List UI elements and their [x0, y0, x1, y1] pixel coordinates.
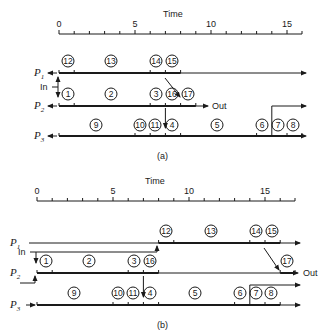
tick-label-5: 5	[110, 186, 115, 196]
task-8: 8	[291, 120, 296, 130]
task-4: 4	[148, 288, 153, 298]
tick-label-0: 0	[34, 186, 39, 196]
processor-label: P3	[9, 298, 21, 313]
task-15: 15	[167, 56, 177, 66]
tick-label-15: 15	[260, 186, 270, 196]
task-13: 13	[106, 56, 116, 66]
processor-p2-b: P2 Out 1 2 3 16 17	[9, 248, 318, 283]
axis-title-b: Time	[145, 176, 165, 186]
schedule-diagrams: Time 0 5 10 15 P1 12 13 14 15 In	[0, 0, 329, 336]
task-15: 15	[267, 226, 277, 236]
task-14: 14	[151, 56, 161, 66]
task-5: 5	[193, 288, 198, 298]
task-7: 7	[254, 288, 259, 298]
axis-title-a: Time	[163, 9, 183, 19]
time-axis-a	[59, 30, 302, 34]
in-label: In	[40, 82, 48, 92]
task-3: 3	[154, 89, 159, 99]
tick-label-0: 0	[56, 19, 61, 29]
task-10: 10	[113, 288, 123, 298]
task-17: 17	[282, 256, 292, 266]
in-label: In	[18, 247, 26, 257]
diagram-a: Time 0 5 10 15 P1 12 13 14 15 In	[33, 9, 306, 161]
transfer-arrow	[264, 248, 279, 270]
task-9: 9	[72, 288, 77, 298]
time-axis-b	[37, 197, 295, 201]
tick-label-10: 10	[206, 19, 216, 29]
tick-label-10: 10	[184, 186, 194, 196]
task-16: 16	[167, 89, 177, 99]
caption-a: (a)	[157, 151, 168, 161]
task-10: 10	[135, 120, 145, 130]
processor-p3-b: P3 9 10 11 4 5 6 7 8	[9, 276, 300, 313]
task-4: 4	[170, 120, 175, 130]
tick-label-5: 5	[132, 19, 137, 29]
processor-p1-b: P1 12 13 14 15	[9, 225, 300, 251]
task-5: 5	[215, 120, 220, 130]
processor-p1-a: P1 12 13 14 15	[33, 55, 306, 81]
task-12: 12	[63, 56, 73, 66]
task-2: 2	[87, 256, 92, 266]
processor-label: P1	[33, 66, 44, 81]
task-11: 11	[129, 288, 138, 298]
task-17: 17	[183, 89, 193, 99]
processor-p3-a: P3 9 10 11 4 5 6 7 8	[33, 106, 306, 144]
task-2: 2	[109, 89, 114, 99]
task-8: 8	[269, 288, 274, 298]
processor-label: P2	[9, 266, 21, 281]
task-7: 7	[276, 120, 281, 130]
processor-label: P2	[33, 99, 45, 114]
task-6: 6	[260, 120, 265, 130]
task-12: 12	[161, 226, 171, 236]
task-16: 16	[145, 256, 155, 266]
processor-p2-a: P2 Out 1 2 3 16 17	[33, 78, 227, 114]
out-label: Out	[212, 101, 227, 111]
task-6: 6	[238, 288, 243, 298]
task-9: 9	[94, 120, 99, 130]
processor-label: P3	[33, 129, 45, 144]
task-1: 1	[44, 256, 49, 266]
task-14: 14	[251, 226, 261, 236]
task-11: 11	[151, 120, 160, 130]
task-13: 13	[206, 226, 216, 236]
task-1: 1	[66, 89, 71, 99]
out-label: Out	[303, 268, 318, 278]
caption-b: (b)	[157, 320, 168, 330]
tick-label-15: 15	[282, 19, 292, 29]
diagram-b: Time 0 5 10 15 P1 12 13 14 15 In P2	[9, 176, 318, 330]
task-3: 3	[132, 256, 137, 266]
